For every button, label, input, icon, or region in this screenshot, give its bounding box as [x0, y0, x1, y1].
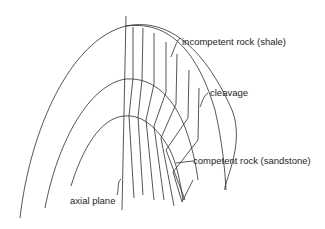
label-axial-plane: axial plane: [70, 196, 115, 206]
leader-competent: [176, 161, 193, 163]
label-competent-rock: competent rock (sandstone): [193, 156, 311, 166]
leader-axial: [117, 179, 121, 195]
middle-bedding-surface: [45, 79, 198, 208]
inner-bedding-surface: [71, 116, 183, 200]
cleavage-line: [161, 54, 177, 206]
leader-incompetent: [171, 38, 180, 57]
cleavage-line: [154, 42, 166, 200]
cleavage-line: [129, 27, 134, 198]
label-cleavage: cleavage: [210, 88, 248, 98]
leader-cleavage: [200, 93, 208, 107]
fold-diagram: incompetent rock (shale) cleavage compet…: [0, 0, 325, 229]
cleavage-line: [138, 28, 143, 195]
outer-bedding-surface: [20, 25, 236, 218]
fold-drawing: [0, 0, 325, 229]
label-incompetent-rock: incompetent rock (shale): [182, 37, 286, 47]
axial-plane-line: [122, 16, 126, 210]
cleavage-line: [146, 33, 154, 200]
cleavage-line: [173, 88, 199, 202]
